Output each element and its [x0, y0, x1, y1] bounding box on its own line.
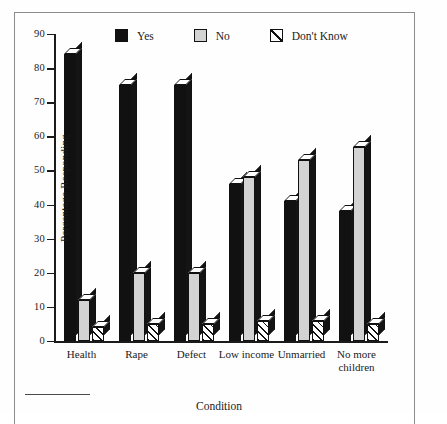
bar-rape-no [133, 273, 145, 341]
bar-face [119, 85, 131, 341]
bar-face [188, 273, 200, 341]
y-axis-tick [47, 170, 54, 171]
bar-face [92, 327, 104, 341]
bar-defect-yes [174, 85, 186, 341]
bar-side-3d [324, 309, 330, 335]
y-axis-tick-label: 90 [34, 29, 45, 40]
y-axis-tick-label: 40 [34, 199, 45, 210]
bar-face [367, 324, 379, 341]
y-axis-tick [47, 341, 54, 342]
bar-face [78, 300, 90, 341]
bar-face [147, 324, 159, 341]
y-axis-tick-label: 30 [34, 233, 45, 244]
bar-group [174, 34, 214, 341]
bar-health-don-t-know [92, 327, 104, 341]
bar-face [174, 85, 186, 341]
bar-face [229, 184, 241, 341]
bar-group [339, 34, 379, 341]
bar-face [133, 273, 145, 341]
y-axis-tick [47, 239, 54, 240]
bar-face [243, 177, 255, 341]
y-axis-title: Percentage Responding [58, 134, 70, 242]
y-axis-tick [47, 136, 54, 137]
bar-no-more-children-no [353, 147, 365, 341]
y-axis-tick [47, 273, 54, 274]
bar-face [284, 201, 296, 341]
bar-side-3d [365, 135, 371, 335]
y-axis-tick-label: 0 [40, 336, 45, 347]
bar-side-3d [255, 165, 261, 335]
bar-unmarried-don-t-know [312, 321, 324, 341]
y-axis-tick-label: 10 [34, 302, 45, 313]
x-axis-line [54, 341, 388, 343]
bar-unmarried-no [298, 160, 310, 341]
y-axis-line [54, 34, 56, 341]
bar-no-more-children-yes [339, 211, 351, 341]
bar-face [257, 321, 269, 341]
bar-group [284, 34, 324, 341]
bar-low-income-don-t-know [257, 321, 269, 341]
bar-no-more-children-don-t-know [367, 324, 379, 341]
bar-health-no [78, 300, 90, 341]
bar-side-3d [310, 148, 316, 335]
x-axis-label-no-more-children: No more children [323, 348, 390, 373]
bar-group [229, 34, 269, 341]
y-axis-tick [47, 102, 54, 103]
y-axis-tick [47, 307, 54, 308]
plot-area: 0102030405060708090 HealthRapeDefectLow … [54, 34, 384, 341]
y-axis-tick [47, 68, 54, 69]
bar-unmarried-yes [284, 201, 296, 341]
bar-face [339, 211, 351, 341]
bar-side-3d [76, 42, 82, 335]
bar-defect-don-t-know [202, 324, 214, 341]
y-axis-tick-label: 20 [34, 268, 45, 279]
footnote-rule [25, 394, 90, 395]
y-axis-tick [47, 34, 54, 35]
y-axis-tick-label: 60 [34, 131, 45, 142]
bar-face [353, 147, 365, 341]
bar-side-3d [269, 309, 275, 335]
bar-rape-yes [119, 85, 131, 341]
bar-face [312, 321, 324, 341]
bar-face [298, 160, 310, 341]
bar-rape-don-t-know [147, 324, 159, 341]
bar-face [202, 324, 214, 341]
y-axis-tick-label: 80 [34, 63, 45, 74]
y-axis-tick [47, 205, 54, 206]
y-axis-tick-label: 70 [34, 97, 45, 108]
bar-group [119, 34, 159, 341]
y-axis-tick-label: 50 [34, 165, 45, 176]
bar-low-income-no [243, 177, 255, 341]
x-axis-title: Condition [54, 400, 384, 412]
bar-defect-no [188, 273, 200, 341]
bar-low-income-yes [229, 184, 241, 341]
